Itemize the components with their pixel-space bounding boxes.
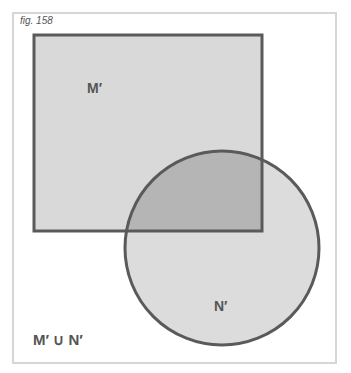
set-m-label: M′ bbox=[87, 80, 102, 96]
venn-diagram bbox=[0, 0, 351, 373]
caption: M′ ∪ N′ bbox=[33, 331, 83, 349]
set-n-label: N′ bbox=[214, 298, 227, 314]
